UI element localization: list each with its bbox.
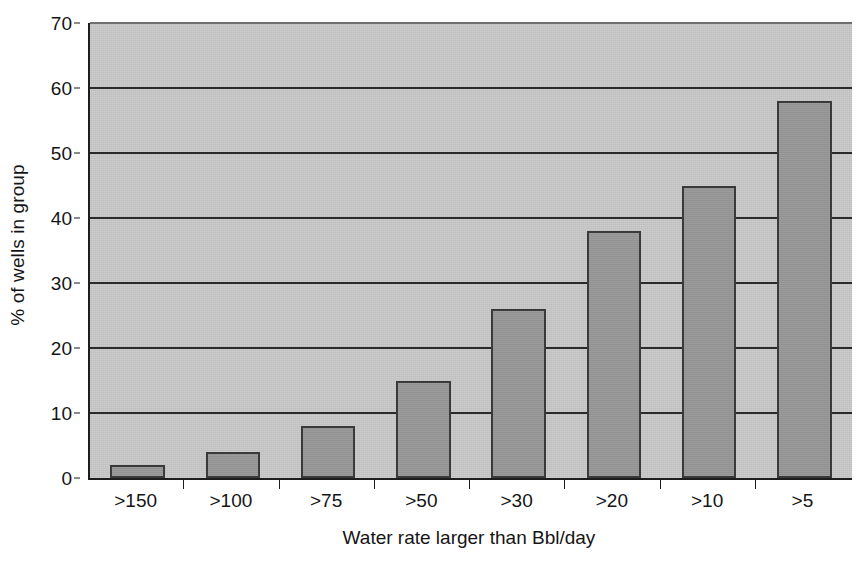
plot-area	[88, 23, 852, 480]
x-axis-tick-mark	[660, 480, 661, 489]
x-axis-tick-label: >10	[660, 490, 755, 518]
y-axis-tick-label: 30	[51, 274, 72, 293]
y-axis-title: % of wells in group	[0, 0, 36, 490]
x-axis-title: Water rate larger than Bbl/day	[88, 527, 850, 549]
bar[interactable]	[301, 426, 355, 478]
x-axis-tick-label: >150	[88, 490, 183, 518]
bar-slot	[566, 23, 661, 478]
bar[interactable]	[682, 186, 736, 479]
bar[interactable]	[110, 465, 164, 478]
bar[interactable]	[777, 101, 831, 478]
x-axis-tick-mark	[564, 480, 565, 489]
x-axis-tick-label-group: >150>100>75>50>30>20>10>5	[88, 490, 850, 518]
y-axis-tick-label: 60	[51, 79, 72, 98]
x-axis-tick-label: >75	[279, 490, 374, 518]
x-axis-tick-label: >30	[469, 490, 564, 518]
x-axis-tick-mark	[469, 480, 470, 489]
y-axis-tick-label-group: 010203040506070	[36, 23, 80, 478]
y-axis-tick-mark	[74, 283, 80, 284]
x-axis-tick-label: >100	[183, 490, 278, 518]
bar-chart-figure: % of wells in group 010203040506070 >150…	[0, 0, 868, 569]
bar[interactable]	[587, 231, 641, 478]
y-axis-tick-mark	[74, 348, 80, 349]
bar-slot	[757, 23, 852, 478]
x-axis-tick-mark	[755, 480, 756, 489]
bar-slot	[185, 23, 280, 478]
bar[interactable]	[206, 452, 260, 478]
x-axis-tick-mark	[279, 480, 280, 489]
bar-slot	[281, 23, 376, 478]
y-axis-tick-mark	[74, 23, 80, 24]
x-axis-tick-mark-group	[88, 480, 850, 490]
y-axis-tick-mark	[74, 413, 80, 414]
y-axis-tick-label: 70	[51, 14, 72, 33]
bar[interactable]	[396, 381, 450, 479]
bar-slot	[90, 23, 185, 478]
y-axis-tick-mark	[74, 153, 80, 154]
y-axis-tick-label: 40	[51, 209, 72, 228]
x-axis-tick-mark	[183, 480, 184, 489]
y-axis-tick-mark	[74, 88, 80, 89]
y-axis-tick-label: 10	[51, 404, 72, 423]
x-axis-tick-label: >20	[564, 490, 659, 518]
bar-slot	[662, 23, 757, 478]
x-axis-tick-label: >50	[374, 490, 469, 518]
bars-layer	[90, 23, 852, 478]
y-axis-tick-label: 0	[61, 469, 72, 488]
y-axis-tick-mark	[74, 478, 80, 479]
y-axis-tick-label: 20	[51, 339, 72, 358]
bar-slot	[471, 23, 566, 478]
y-axis-tick-label: 50	[51, 144, 72, 163]
y-axis-title-text: % of wells in group	[7, 164, 29, 325]
y-axis-tick-mark	[74, 218, 80, 219]
x-axis-tick-mark	[374, 480, 375, 489]
x-axis-tick-label: >5	[755, 490, 850, 518]
bar[interactable]	[491, 309, 545, 478]
bar-slot	[376, 23, 471, 478]
